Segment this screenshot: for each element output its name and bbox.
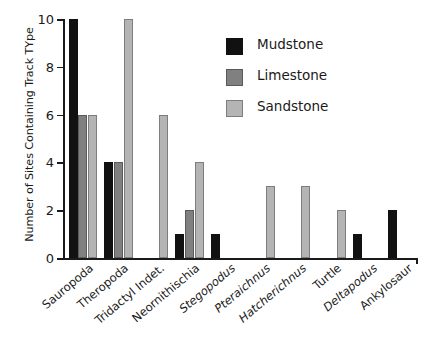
y-tick-label: 10 (37, 12, 54, 27)
legend-swatch-limestone (226, 69, 243, 86)
y-tick-label: 4 (46, 155, 54, 170)
legend-item-sandstone: Sandstone (226, 98, 416, 129)
bar-mudstone-sauropoda (69, 19, 78, 258)
x-axis-tick-labels: SauropodaTheropodaTridactyl Indet.Neorni… (63, 261, 432, 352)
y-tick-label: 6 (46, 107, 54, 122)
bar-sandstone-sauropoda (88, 115, 97, 258)
legend-label-limestone: Limestone (257, 67, 327, 83)
legend-label-sandstone: Sandstone (257, 98, 328, 114)
legend-label-mudstone: Mudstone (257, 36, 323, 52)
chart-legend: MudstoneLimestoneSandstone (226, 36, 416, 129)
legend-item-mudstone: Mudstone (226, 36, 416, 67)
bar-limestone-sauropoda (78, 115, 87, 258)
legend-swatch-mudstone (226, 38, 243, 55)
legend-item-limestone: Limestone (226, 67, 416, 98)
bar-chart-figure: Number of Sites Containing Track TYpe 02… (0, 0, 432, 352)
y-tick-mark (57, 258, 63, 260)
y-axis-title: Number of Sites Containing Track TYpe (23, 10, 36, 260)
y-tick-label: 2 (46, 203, 54, 218)
y-tick-label: 8 (46, 59, 54, 74)
y-tick-label: 0 (46, 251, 54, 266)
legend-swatch-sandstone (226, 100, 243, 117)
